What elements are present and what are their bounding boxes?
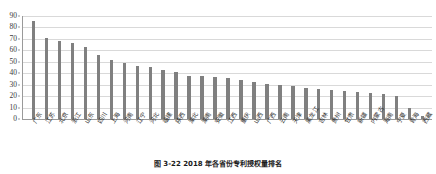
x-axis-labels: 广东江苏北京浙江山东四川上海河南辽宁河北福建陕西湖北湖南安徽江西重庆山西广西云南… bbox=[23, 120, 432, 154]
x-label-slot: 天津 bbox=[286, 120, 299, 154]
bar bbox=[84, 47, 87, 119]
bar-slot bbox=[118, 16, 131, 119]
bar-slot bbox=[273, 16, 286, 119]
y-axis-tick-mark bbox=[18, 96, 20, 97]
x-label-slot: 广西 bbox=[260, 120, 273, 154]
bar-slot bbox=[92, 16, 105, 119]
bar bbox=[200, 76, 203, 119]
x-label-slot: 宁夏 bbox=[390, 120, 403, 154]
x-label-slot: 内蒙古 bbox=[364, 120, 377, 154]
x-label-slot: 陕西 bbox=[170, 120, 183, 154]
x-label-slot: 海南 bbox=[377, 120, 390, 154]
bar bbox=[71, 43, 74, 119]
x-label-slot: 青海 bbox=[403, 120, 416, 154]
x-label-slot: 河南 bbox=[118, 120, 131, 154]
y-axis-tick-mark bbox=[18, 50, 20, 51]
bar-slot bbox=[66, 16, 79, 119]
x-label-slot: 山西 bbox=[247, 120, 260, 154]
x-label-slot: 江西 bbox=[222, 120, 235, 154]
x-label-slot: 辽宁 bbox=[131, 120, 144, 154]
x-label-slot: 甘肃 bbox=[338, 120, 351, 154]
y-axis-tick-mark bbox=[18, 61, 20, 62]
bar-slot bbox=[390, 16, 403, 119]
y-axis-tick-mark bbox=[18, 107, 20, 108]
bar-slot bbox=[286, 16, 299, 119]
plot-area bbox=[22, 16, 432, 119]
y-axis-tick-label: 20 bbox=[10, 92, 18, 100]
y-axis-tick-label: 60 bbox=[10, 46, 18, 54]
x-label-slot: 新疆 bbox=[351, 120, 364, 154]
bar-slot bbox=[157, 16, 170, 119]
y-axis-tick-label: 90 bbox=[10, 12, 18, 20]
bar bbox=[213, 77, 216, 119]
bar-slot bbox=[105, 16, 118, 119]
bar-slot bbox=[364, 16, 377, 119]
x-label-slot: 贵州 bbox=[325, 120, 338, 154]
bar-slot bbox=[235, 16, 248, 119]
bar-slot bbox=[325, 16, 338, 119]
x-label-slot: 西藏 bbox=[416, 120, 429, 154]
x-label-slot: 浙江 bbox=[66, 120, 79, 154]
bar-slot bbox=[170, 16, 183, 119]
bar-slot bbox=[209, 16, 222, 119]
bar-slot bbox=[79, 16, 92, 119]
bar-slot bbox=[131, 16, 144, 119]
bar bbox=[97, 55, 100, 119]
y-axis-tick-mark bbox=[18, 27, 20, 28]
bar-slot bbox=[299, 16, 312, 119]
x-label-slot: 福建 bbox=[157, 120, 170, 154]
bar bbox=[136, 66, 139, 119]
bar-slot bbox=[338, 16, 351, 119]
bar-slot bbox=[247, 16, 260, 119]
bar-slot bbox=[40, 16, 53, 119]
x-label-slot: 湖北 bbox=[183, 120, 196, 154]
y-axis-tick-mark bbox=[18, 119, 20, 120]
y-axis-tick-label: 50 bbox=[10, 58, 18, 66]
x-label-slot: 广东 bbox=[27, 120, 40, 154]
x-label-slot: 江苏 bbox=[40, 120, 53, 154]
bar-slot bbox=[196, 16, 209, 119]
x-label-slot: 重庆 bbox=[235, 120, 248, 154]
x-label-slot: 黑龙江 bbox=[299, 120, 312, 154]
bar-slot bbox=[27, 16, 40, 119]
x-label-slot: 山东 bbox=[79, 120, 92, 154]
y-axis-tick-mark bbox=[18, 73, 20, 74]
bar bbox=[149, 67, 152, 119]
y-axis-tick-label: 70 bbox=[10, 35, 18, 43]
bar-slot bbox=[260, 16, 273, 119]
bar-slot bbox=[222, 16, 235, 119]
bar-slot bbox=[403, 16, 416, 119]
bar-slot bbox=[144, 16, 157, 119]
bar-slot bbox=[377, 16, 390, 119]
bar-slot bbox=[312, 16, 325, 119]
bar bbox=[45, 38, 48, 119]
bar bbox=[32, 21, 35, 119]
x-label-slot: 四川 bbox=[92, 120, 105, 154]
bar bbox=[110, 60, 113, 120]
bar bbox=[123, 63, 126, 119]
bar-slot bbox=[351, 16, 364, 119]
bar bbox=[174, 72, 177, 119]
x-label-slot: 湖南 bbox=[196, 120, 209, 154]
y-axis-tick-label: 0 bbox=[13, 115, 17, 123]
figure-caption: 图 3-22 2018 年各省份专利授权量排名 bbox=[0, 160, 436, 169]
y-axis-tick-label: 10 bbox=[10, 104, 18, 112]
x-label-slot: 吉林 bbox=[312, 120, 325, 154]
x-label-slot: 上海 bbox=[105, 120, 118, 154]
y-axis: 0102030405060708090 bbox=[0, 16, 20, 119]
y-axis-tick-label: 80 bbox=[10, 23, 18, 31]
bar-slot bbox=[416, 16, 429, 119]
bar bbox=[58, 41, 61, 119]
x-label-slot: 云南 bbox=[273, 120, 286, 154]
y-axis-tick-label: 40 bbox=[10, 69, 18, 77]
y-axis-tick-mark bbox=[18, 16, 20, 17]
bar-slot bbox=[183, 16, 196, 119]
bar-slot bbox=[53, 16, 66, 119]
bar-series bbox=[23, 16, 432, 119]
y-axis-tick-mark bbox=[18, 84, 20, 85]
bar bbox=[161, 70, 164, 119]
x-label-slot: 河北 bbox=[144, 120, 157, 154]
bar bbox=[187, 76, 190, 119]
x-label-slot: 北京 bbox=[53, 120, 66, 154]
figure-container: 0102030405060708090 广东江苏北京浙江山东四川上海河南辽宁河北… bbox=[0, 0, 436, 174]
